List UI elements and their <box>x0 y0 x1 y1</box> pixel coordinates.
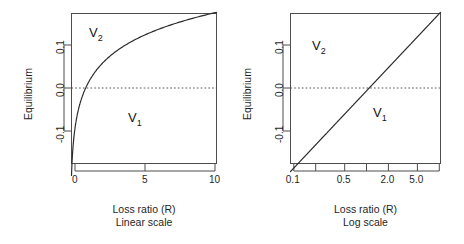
x-axis-title-line1: Loss ratio (R) <box>290 203 441 216</box>
y-ticklabel-0.0: 0.0 <box>55 83 66 97</box>
figure-two-panel-equilibrium: 0.1 0.0 -0.1 0 5 10 Equilibrium Loss rat… <box>0 0 464 244</box>
x-axis-title-line2: Log scale <box>290 216 441 229</box>
x-tick-group <box>294 164 440 171</box>
y-ticklabel-0.1: 0.1 <box>274 40 285 54</box>
y-ticklabel-0.0: 0.0 <box>274 83 285 97</box>
y-ticklabel-0.1: 0.1 <box>55 40 66 54</box>
x-ticklabel-0: 0 <box>72 174 78 185</box>
panel-linear-scale: 0.1 0.0 -0.1 0 5 10 Equilibrium Loss rat… <box>0 0 232 244</box>
y-ticklabel-neg0.1: -0.1 <box>274 126 285 143</box>
region-label-v1: V1 <box>128 110 142 128</box>
y-axis-title: Equilibrium <box>22 68 34 120</box>
region-label-v2: V2 <box>312 38 326 56</box>
x-ticklabel-0.1: 0.1 <box>286 174 300 185</box>
x-axis-title-line2: Linear scale <box>71 216 217 229</box>
region-label-v2: V2 <box>89 25 103 43</box>
x-ticklabel-5: 5 <box>142 174 148 185</box>
y-ticklabel-neg0.1: -0.1 <box>55 126 66 143</box>
region-label-v1: V1 <box>373 105 387 123</box>
x-ticklabel-0.5: 0.5 <box>337 174 351 185</box>
panel-log-scale: 0.1 0.0 -0.1 0.10.52.05.0 Equilibrium Lo… <box>232 0 464 244</box>
y-axis-title: Equilibrium <box>241 68 253 120</box>
x-ticklabel-5: 5.0 <box>409 174 423 185</box>
equilibrium-curve <box>291 12 441 171</box>
x-ticklabel-2: 2.0 <box>380 174 394 185</box>
x-ticklabel-10: 10 <box>209 174 220 185</box>
x-axis-title-line1: Loss ratio (R) <box>71 203 217 216</box>
